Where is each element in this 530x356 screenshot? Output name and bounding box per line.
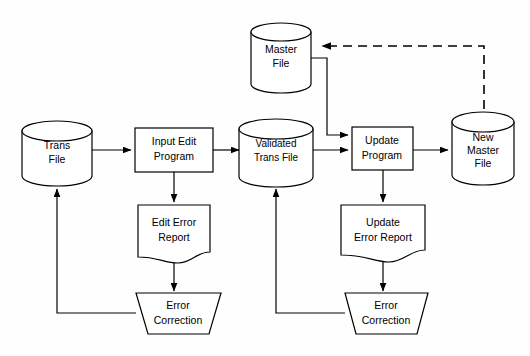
node-label-update-program-line2: Program — [362, 149, 403, 161]
node-update-error-report: Update Error Report — [341, 205, 425, 262]
connector-master-file-to-update-program — [311, 58, 348, 135]
node-error-correction-left: Error Correction — [136, 293, 221, 334]
node-label-input-edit-program-line1: Input Edit — [152, 135, 196, 147]
node-error-correction-right: Error Correction — [345, 293, 428, 334]
node-input-edit-program: Input Edit Program — [135, 128, 213, 172]
node-label-update-error-report-line2: Error Report — [354, 231, 412, 243]
node-label-master-file-line1: Master — [265, 43, 298, 55]
flowchart-diagram: Master File Trans File Validated Trans F… — [0, 0, 530, 356]
node-label-trans-file-line1: Trans — [44, 139, 70, 151]
connector-error-correction-right-to-validated-trans — [276, 189, 345, 313]
node-label-new-master-file-line1: New — [472, 131, 493, 143]
node-validated-trans-file: Validated Trans File — [239, 119, 313, 187]
node-label-trans-file-line2: File — [49, 153, 66, 165]
node-label-update-error-report-line1: Update — [366, 216, 400, 228]
node-trans-file: Trans File — [22, 121, 92, 186]
node-label-master-file-line2: File — [273, 57, 290, 69]
node-label-new-master-file-line2: Master — [467, 144, 500, 156]
node-label-validated-trans-file-line1: Validated — [256, 138, 297, 149]
flowchart-canvas: Master File Trans File Validated Trans F… — [0, 0, 530, 356]
node-label-error-correction-left-line1: Error — [166, 299, 190, 311]
node-label-edit-error-report-line1: Edit Error — [152, 216, 197, 228]
node-label-error-correction-right-line1: Error — [374, 299, 398, 311]
node-master-file: Master File — [251, 23, 311, 93]
connector-new-master-file-to-master-file — [322, 46, 484, 109]
node-edit-error-report: Edit Error Report — [138, 205, 210, 263]
node-label-new-master-file-line3: File — [475, 157, 492, 169]
node-new-master-file: New Master File — [452, 112, 514, 185]
node-label-input-edit-program-line2: Program — [154, 150, 195, 162]
node-label-update-program-line1: Update — [365, 134, 399, 146]
node-label-validated-trans-file-line2: Trans File — [254, 152, 299, 163]
connector-error-correction-left-to-trans-file — [57, 189, 136, 313]
node-label-error-correction-right-line2: Correction — [362, 314, 411, 326]
node-label-error-correction-left-line2: Correction — [154, 314, 203, 326]
node-update-program: Update Program — [352, 127, 413, 170]
node-label-edit-error-report-line2: Report — [158, 231, 190, 243]
